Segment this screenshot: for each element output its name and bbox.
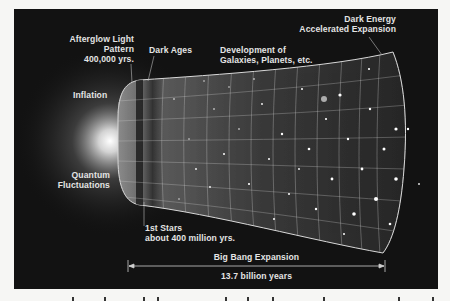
galaxies-label: Development of Galaxies, Planets, etc. — [220, 45, 313, 65]
dark-energy-line1: Dark Energy — [294, 14, 396, 24]
cut-off-caption — [0, 293, 450, 301]
galaxies-line2: Galaxies, Planets, etc. — [220, 55, 313, 65]
quantum-line1: Quantum — [54, 170, 110, 180]
universe-timeline-diagram: Afterglow Light Pattern 400,000 yrs. Dar… — [14, 9, 438, 289]
first-stars-line1: 1st Stars — [145, 223, 235, 233]
outer-star — [418, 183, 420, 185]
afterglow-label: Afterglow Light Pattern 400,000 yrs. — [58, 34, 134, 64]
quantum-label: Quantum Fluctuations — [54, 170, 110, 190]
first-stars-label: 1st Stars about 400 million yrs. — [145, 223, 235, 243]
afterglow-line1: Afterglow Light — [58, 34, 134, 44]
timeline-duration: 13.7 billion years — [128, 271, 385, 281]
outer-star — [407, 128, 409, 130]
dark-ages-line1: Dark Ages — [149, 45, 192, 55]
afterglow-line3: 400,000 yrs. — [58, 54, 134, 64]
inflation-label: Inflation — [73, 90, 107, 100]
first-stars-line2: about 400 million yrs. — [145, 233, 235, 243]
dark-ages-label: Dark Ages — [149, 45, 192, 55]
galaxies-line1: Development of — [220, 45, 313, 55]
dark-energy-line2: Accelerated Expansion — [294, 24, 396, 34]
dark-energy-label: Dark Energy Accelerated Expansion — [294, 14, 396, 34]
inflation-line1: Inflation — [73, 90, 107, 100]
afterglow-line2: Pattern — [58, 44, 134, 54]
quantum-line2: Fluctuations — [54, 180, 110, 190]
timeline-title: Big Bang Expansion — [128, 252, 385, 262]
